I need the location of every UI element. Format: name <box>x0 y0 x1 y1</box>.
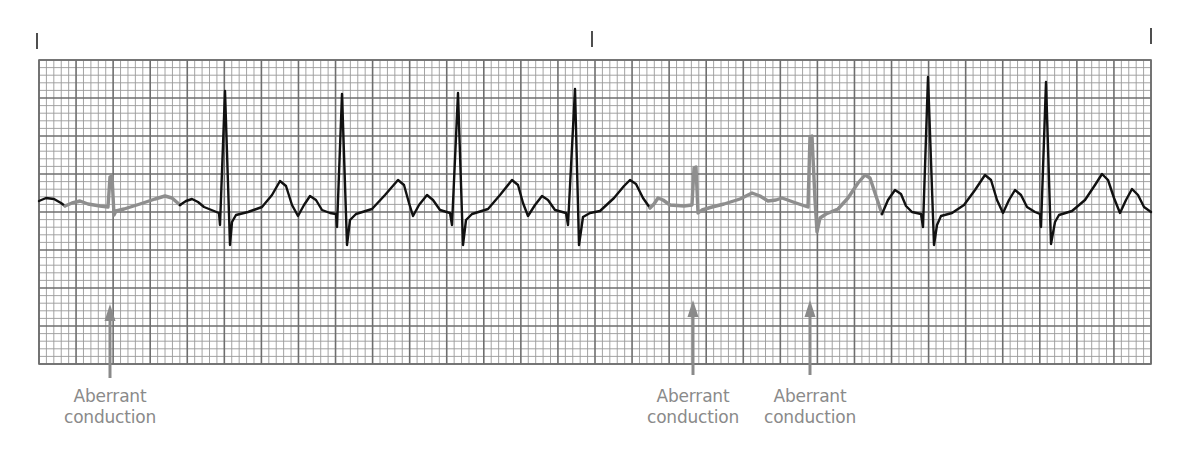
time-marks <box>37 28 1151 49</box>
normal-beat-trace <box>180 89 650 245</box>
annotation-label-3-line1: Aberrant <box>740 386 880 407</box>
annotation-label-3-line2: conduction <box>740 407 880 428</box>
annotation-arrows <box>105 300 816 378</box>
arrow-up-icon <box>688 300 699 317</box>
annotation-label-3: Aberrant conduction <box>740 386 880 428</box>
arrow-up-icon <box>805 300 816 317</box>
annotation-label-1-line2: conduction <box>40 407 180 428</box>
annotation-label-1-line1: Aberrant <box>40 386 180 407</box>
annotation-label-1: Aberrant conduction <box>40 386 180 428</box>
